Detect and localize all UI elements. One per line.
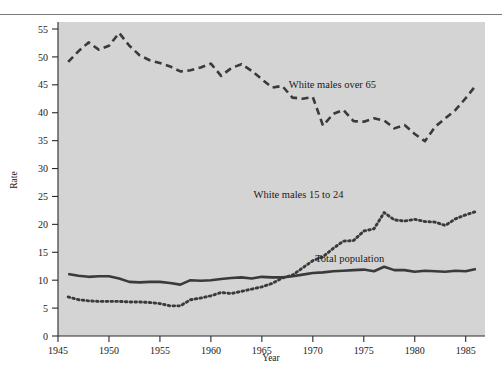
y-tick-label: 40 — [38, 107, 48, 118]
x-tick-label: 1980 — [405, 345, 425, 356]
series-label-white-males-over-65: White males over 65 — [289, 79, 376, 90]
x-tick-label: 1960 — [201, 345, 221, 356]
y-tick-label: 25 — [38, 191, 48, 202]
x-tick-label: 1975 — [354, 345, 374, 356]
y-tick-label: 0 — [43, 331, 48, 342]
figure-container: 0510152025303540455055 19451950195519601… — [0, 0, 502, 377]
y-tick-label: 10 — [38, 275, 48, 286]
y-tick-label: 35 — [38, 135, 48, 146]
x-tick-label: 1955 — [150, 345, 170, 356]
x-tick-label: 1950 — [99, 345, 119, 356]
series-label-white-males-15-to-24: White males 15 to 24 — [254, 189, 345, 200]
y-axis-ticks: 0510152025303540455055 — [38, 24, 58, 342]
y-tick-label: 5 — [43, 303, 48, 314]
line-chart: 0510152025303540455055 19451950195519601… — [0, 0, 502, 377]
series-label-total-population: Total population — [315, 253, 385, 264]
x-tick-label: 1985 — [456, 345, 476, 356]
y-tick-label: 30 — [38, 163, 48, 174]
y-axis-title: Rate — [9, 171, 19, 188]
y-tick-label: 55 — [38, 24, 48, 35]
y-tick-label: 45 — [38, 79, 48, 90]
x-tick-label: 1945 — [48, 345, 68, 356]
y-tick-label: 20 — [38, 219, 48, 230]
y-tick-label: 50 — [38, 52, 48, 63]
y-tick-label: 15 — [38, 247, 48, 258]
x-tick-label: 1970 — [303, 345, 323, 356]
plot-area-background — [58, 22, 485, 336]
x-axis-title: Year — [262, 353, 280, 363]
